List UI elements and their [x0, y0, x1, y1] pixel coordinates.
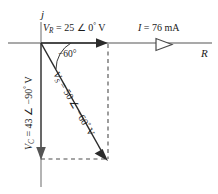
- phasor-diagram-figure: j R VR = 25 ∠ 0° V I = 76 mA −60° VS = 5…: [0, 0, 218, 194]
- vector-label-vc: VC = 43 ∠ −90° V: [24, 76, 36, 150]
- vc-symbol: V: [23, 144, 34, 150]
- vector-vc-arrowhead: [36, 147, 46, 160]
- vc-subscript: C: [28, 139, 36, 144]
- angle-label: −60°: [58, 50, 77, 60]
- vr-unit: V: [96, 22, 106, 33]
- vr-value: = 25 ∠ 0: [54, 22, 94, 33]
- vc-degree: °: [23, 86, 31, 89]
- axis-label-r: R: [201, 48, 208, 59]
- vc-unit: V: [23, 76, 34, 86]
- current-direction-arrow: [156, 39, 172, 51]
- vector-vr-arrowhead: [96, 38, 108, 48]
- current-label: I = 76 mA: [138, 23, 179, 33]
- current-value: = 76 mA: [141, 22, 179, 33]
- axis-label-j: j: [41, 9, 44, 20]
- vc-value: = 43 ∠ −90: [23, 89, 34, 139]
- vector-label-vr: VR = 25 ∠ 0° V: [43, 23, 106, 35]
